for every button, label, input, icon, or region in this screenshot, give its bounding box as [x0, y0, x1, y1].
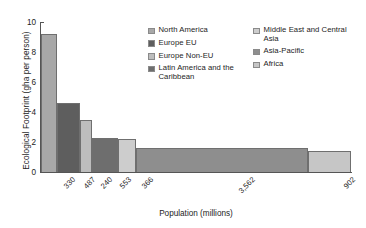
y-axis-tick-label: 2	[0, 138, 36, 147]
legend-item-label: Europe Non-EU	[159, 52, 214, 61]
legend-item[interactable]: North America	[148, 26, 243, 35]
bar-fill	[80, 120, 92, 173]
legend-swatch-icon	[253, 62, 260, 69]
x-axis-tick-label: 330	[62, 175, 78, 191]
legend-item-label: Asia-Pacific	[264, 47, 305, 56]
legend-item[interactable]: Europe EU	[148, 39, 243, 48]
bar	[92, 22, 119, 172]
legend-swatch-icon	[253, 49, 260, 56]
legend-item[interactable]: Europe Non-EU	[148, 52, 243, 61]
ecological-footprint-chart: Ecological Footprint (gha per person) 10…	[0, 0, 366, 228]
bar	[57, 22, 80, 172]
y-axis-tick-label: 8	[0, 48, 36, 57]
y-axis-tick-label: 6	[0, 78, 36, 87]
bar	[41, 22, 57, 172]
legend-swatch-icon	[148, 28, 155, 35]
bar	[118, 22, 136, 172]
legend-swatch-icon	[148, 66, 155, 73]
x-axis-tick-label: 366	[140, 175, 156, 191]
legend-swatch-icon	[253, 28, 260, 35]
bar-fill	[136, 148, 307, 172]
bar	[80, 22, 92, 172]
y-axis-tick-label: 10	[0, 18, 36, 27]
legend: North AmericaEurope EUEurope Non-EULatin…	[148, 26, 358, 82]
y-axis-tick-label: 0	[0, 168, 36, 177]
x-axis-title: Population (millions)	[41, 209, 351, 218]
y-axis-tick-label: 4	[0, 108, 36, 117]
bar-fill	[308, 151, 351, 172]
legend-swatch-icon	[148, 53, 155, 60]
x-axis-tick-label: 3,562	[237, 175, 257, 195]
bar-fill	[57, 103, 80, 172]
bar-fill	[41, 34, 57, 172]
legend-item-label: Middle East and Central Asia	[264, 26, 354, 43]
x-axis-tick-label: 240	[99, 175, 115, 191]
legend-item[interactable]: Asia-Pacific	[253, 47, 353, 56]
bar-fill	[118, 139, 136, 172]
legend-item-label: Latin America and the Caribbean	[159, 64, 244, 81]
legend-item[interactable]: Middle East and Central Asia	[253, 26, 353, 43]
bar-fill	[92, 138, 119, 172]
legend-swatch-icon	[148, 40, 155, 47]
legend-column-1: North AmericaEurope EUEurope Non-EULatin…	[148, 26, 243, 82]
legend-item-label: North America	[159, 26, 208, 35]
y-axis-title: Ecological Footprint (gha per person)	[22, 21, 31, 181]
legend-item-label: Europe EU	[159, 39, 197, 48]
legend-item[interactable]: Africa	[253, 60, 353, 69]
x-axis-tick-label: 487	[81, 175, 97, 191]
legend-column-2: Middle East and Central AsiaAsia-Pacific…	[253, 26, 353, 82]
legend-item[interactable]: Latin America and the Caribbean	[148, 64, 243, 81]
x-axis-tick-label: 902	[342, 175, 358, 191]
x-axis-line	[40, 172, 352, 173]
legend-item-label: Africa	[264, 60, 284, 69]
x-axis-tick-label: 553	[118, 175, 134, 191]
